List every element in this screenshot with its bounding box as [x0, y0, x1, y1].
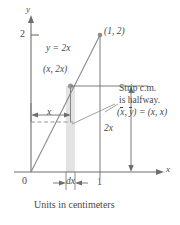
y-tick-label-2: 2 [20, 29, 25, 39]
y-axis-arrowhead [28, 15, 34, 23]
dimension-x-arrowhead-left [31, 112, 38, 117]
cm-x-bar: x [120, 108, 124, 118]
cm-equals-expression: ) = (x, x) [133, 107, 167, 117]
label-vertex-point: (1, 2) [104, 27, 125, 37]
point-marker-1-2 [98, 33, 103, 38]
axis-label-y: y [26, 5, 30, 14]
x-axis-arrowhead [156, 169, 164, 175]
axis-label-x: x [166, 165, 170, 174]
label-strip-top-point: (x, 2x) [43, 65, 67, 75]
figure-container: y x 2 0 1 y = 2x (1, 2) (x, 2x) x 2x dx … [0, 0, 180, 225]
line-y-equals-2x [31, 35, 100, 172]
label-dimension-x: x [47, 108, 51, 118]
leader-line-cm-label [72, 104, 115, 124]
dx-arrowhead-left [59, 181, 66, 186]
label-dx: dx [66, 177, 75, 187]
x-tick-label-1: 1 [97, 177, 102, 187]
note-cm-coordinates: (x, y) = (x, x) [117, 108, 167, 118]
origin-label-0: 0 [22, 176, 27, 186]
dx-arrowhead-right [75, 181, 82, 186]
note-strip-cm-line2: is halfway. [119, 96, 160, 106]
note-strip-cm-line1: Strip c.m. [119, 84, 156, 94]
cm-y-bar: y [129, 108, 133, 118]
label-dimension-2x: 2x [104, 124, 113, 134]
dimension-2x-arrowhead-bottom [128, 165, 133, 172]
figure-caption: Units in centimeters [34, 200, 115, 210]
label-line-equation: y = 2x [46, 44, 70, 54]
